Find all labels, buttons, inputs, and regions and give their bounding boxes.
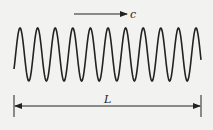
length-label: L xyxy=(103,93,111,106)
velocity-arrow: c xyxy=(74,8,136,21)
sine-wave xyxy=(14,28,201,81)
velocity-label: c xyxy=(130,8,136,21)
length-dimension: L xyxy=(14,93,201,117)
wave-diagram: c L xyxy=(0,0,213,130)
